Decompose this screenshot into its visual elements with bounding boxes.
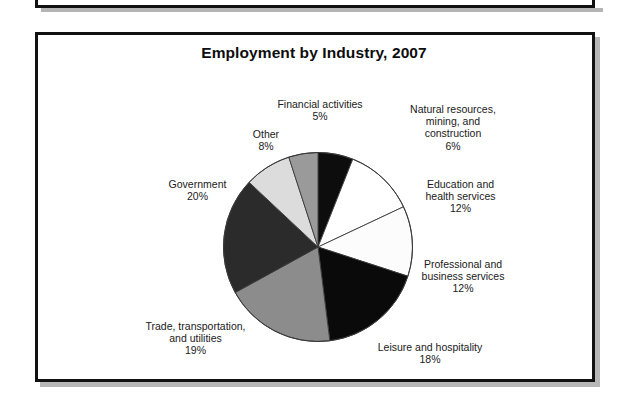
- slice-label-percent: 12%: [398, 282, 528, 294]
- slice-label-line: Leisure and hospitality: [378, 341, 482, 353]
- slice-label-percent: 19%: [118, 344, 273, 356]
- slice-label-government: Government 20%: [140, 178, 255, 202]
- slice-label-financial-activities: Financial activities 5%: [255, 98, 385, 122]
- slice-label-line: Natural resources,: [410, 103, 496, 115]
- slice-label-line: Professional and: [424, 258, 502, 270]
- slice-label-line: health services: [425, 190, 495, 202]
- figure-box-shadow-right: [595, 37, 600, 387]
- slice-label-trade-transportation-and-utilities: Trade, transportation, and utilities 19%: [118, 320, 273, 357]
- figure-box-shadow-bottom: [40, 382, 600, 387]
- slice-label-line: Financial activities: [277, 98, 362, 110]
- slice-label-percent: 20%: [140, 190, 255, 202]
- slice-label-line: construction: [425, 127, 482, 139]
- slice-label-leisure-and-hospitality: Leisure and hospitality 18%: [355, 341, 505, 365]
- slice-label-percent: 5%: [255, 110, 385, 122]
- slice-label-line: Trade, transportation,: [146, 320, 246, 332]
- slice-label-line: business services: [422, 270, 505, 282]
- slice-label-line: Government: [169, 178, 227, 190]
- slice-label-natural-resources: Natural resources, mining, and construct…: [388, 103, 518, 152]
- slice-label-other: Other 8%: [226, 128, 306, 152]
- slice-label-percent: 12%: [398, 202, 523, 214]
- slice-label-professional-and-business-services: Professional and business services 12%: [398, 258, 528, 295]
- slice-label-line: Education and: [427, 178, 494, 190]
- slice-label-line: mining, and: [426, 115, 480, 127]
- slice-label-percent: 8%: [226, 140, 306, 152]
- slice-label-line: Other: [253, 128, 279, 140]
- chart-title: Employment by Industry, 2007: [0, 44, 628, 62]
- slice-label-percent: 6%: [388, 140, 518, 152]
- slice-label-line: and utilities: [169, 332, 222, 344]
- slice-label-percent: 18%: [355, 353, 505, 365]
- slice-label-education-and-health-services: Education and health services 12%: [398, 178, 523, 215]
- preceding-figure-partial-box: [35, 0, 595, 8]
